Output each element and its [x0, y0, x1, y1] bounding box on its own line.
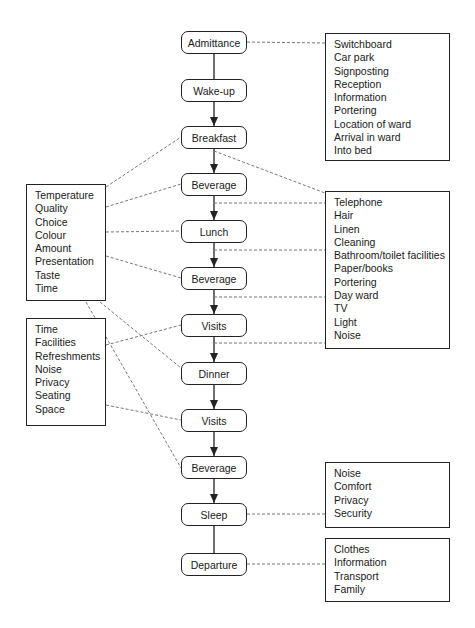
dashed-connector: [106, 184, 181, 207]
attribute-item: Amount: [35, 242, 105, 255]
attribute-item: Facilities: [35, 336, 105, 349]
attribute-item: Light: [334, 316, 449, 329]
stage-beverage-1: Beverage: [181, 173, 247, 196]
stage-dinner: Dinner: [181, 362, 247, 385]
attribute-item: Choice: [35, 216, 105, 229]
attribute-item: Temperature: [35, 189, 105, 202]
arrowhead-icon: [210, 447, 218, 456]
arrowhead-icon: [210, 353, 218, 362]
attribute-item: Location of ward: [334, 118, 449, 131]
attribute-item: Comfort: [334, 480, 449, 493]
sleep-attributes-box: Noise Comfort Privacy Security: [325, 462, 450, 528]
attribute-item: TV: [334, 302, 449, 315]
attribute-item: Reception: [334, 78, 449, 91]
stage-beverage-2: Beverage: [181, 267, 247, 290]
attribute-item: Privacy: [334, 494, 449, 507]
attribute-item: Refreshments: [35, 350, 105, 363]
dashed-connector: [247, 42, 325, 43]
attribute-item: Bathroom/toilet facilities: [334, 249, 449, 262]
attribute-item: Arrival in ward: [334, 131, 449, 144]
attribute-item: Quality: [35, 202, 105, 215]
attribute-item: Portering: [334, 276, 449, 289]
stage-visits-1: Visits: [181, 314, 247, 337]
food-attributes-box: Temperature Quality Choice Colour Amount…: [26, 184, 106, 301]
attribute-item: Information: [334, 91, 449, 104]
stage-sleep: Sleep: [181, 503, 247, 526]
attribute-item: Time: [35, 282, 105, 295]
stage-lunch: Lunch: [181, 220, 247, 243]
attribute-item: Time: [35, 323, 105, 336]
stage-visits-2: Visits: [181, 409, 247, 432]
stage-beverage-3: Beverage: [181, 456, 247, 479]
attribute-item: Taste: [35, 269, 105, 282]
attribute-item: Clothes: [334, 543, 449, 556]
attribute-item: Seating: [35, 389, 105, 402]
attribute-item: Telephone: [334, 196, 449, 209]
attribute-item: Linen: [334, 223, 449, 236]
attribute-item: Family: [334, 583, 449, 596]
dashed-connector: [106, 231, 181, 232]
departure-attributes-box: Clothes Information Transport Family: [325, 538, 450, 602]
attribute-item: Transport: [334, 570, 449, 583]
attribute-item: Information: [334, 556, 449, 569]
dashed-connector: [106, 325, 181, 345]
dashed-connector: [100, 302, 181, 368]
attribute-item: Into bed: [334, 144, 449, 157]
journey-diagram: Admittance Wake-up Breakfast Beverage Lu…: [0, 0, 475, 628]
dashed-connector: [106, 405, 181, 420]
stage-breakfast: Breakfast: [181, 126, 247, 149]
attribute-item: Noise: [334, 467, 449, 480]
arrowhead-icon: [210, 400, 218, 409]
arrowhead-icon: [210, 117, 218, 126]
dashed-connector: [106, 137, 181, 187]
attribute-item: Noise: [334, 329, 449, 342]
admittance-attributes-box: Switchboard Car park Signposting Recepti…: [325, 33, 450, 161]
attribute-item: Switchboard: [334, 38, 449, 51]
attribute-item: Cleaning: [334, 236, 449, 249]
visits-attributes-box: Time Facilities Refreshments Noise Priva…: [26, 318, 106, 426]
attribute-item: Space: [35, 403, 105, 416]
dashed-connector: [106, 256, 181, 278]
arrowhead-icon: [210, 305, 218, 314]
ward-attributes-box: Telephone Hair Linen Cleaning Bathroom/t…: [325, 191, 450, 349]
arrowhead-icon: [210, 211, 218, 220]
stage-admittance: Admittance: [181, 31, 247, 54]
arrowhead-icon: [210, 164, 218, 173]
attribute-item: Car park: [334, 51, 449, 64]
attribute-item: Portering: [334, 104, 449, 117]
attribute-item: Day ward: [334, 289, 449, 302]
attribute-item: Privacy: [35, 376, 105, 389]
stage-wake-up: Wake-up: [181, 79, 247, 102]
attribute-item: Hair: [334, 209, 449, 222]
arrowhead-icon: [210, 494, 218, 503]
attribute-item: Colour: [35, 229, 105, 242]
attribute-item: Signposting: [334, 65, 449, 78]
attribute-item: Paper/books: [334, 262, 449, 275]
attribute-item: Security: [334, 507, 449, 520]
attribute-item: Presentation: [35, 255, 105, 268]
arrowhead-icon: [210, 258, 218, 267]
attribute-item: Noise: [35, 363, 105, 376]
stage-departure: Departure: [181, 553, 247, 576]
